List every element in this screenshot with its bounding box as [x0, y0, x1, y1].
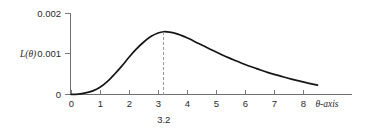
y-tick-label-zero: 0 [56, 89, 61, 100]
x-tick-label-3: 3 [156, 98, 161, 109]
peak-value-label: 3.2 [157, 114, 170, 125]
y-axis-label: L(θ) [19, 49, 36, 60]
x-tick-label-6: 6 [243, 98, 248, 109]
x-tick-label-2: 2 [127, 98, 132, 109]
x-tick-label-7: 7 [272, 98, 277, 109]
x-tick-label-0: 0 [69, 98, 74, 109]
likelihood-function-chart: 0.002 0.001 0 L(θ) 0 1 2 3 4 5 6 7 8 [0, 0, 368, 129]
x-tick-label-1: 1 [98, 98, 103, 109]
chart-svg: 0.002 0.001 0 L(θ) 0 1 2 3 4 5 6 7 8 [0, 0, 368, 129]
x-tick-label-4: 4 [185, 98, 190, 109]
x-tick-label-5: 5 [214, 98, 219, 109]
y-tick-label-top: 0.002 [37, 8, 61, 19]
chart-background [0, 0, 368, 129]
x-tick-label-8: 8 [301, 98, 306, 109]
y-tick-label-mid: 0.001 [37, 48, 61, 59]
x-axis-label: θ-axis [315, 99, 338, 109]
